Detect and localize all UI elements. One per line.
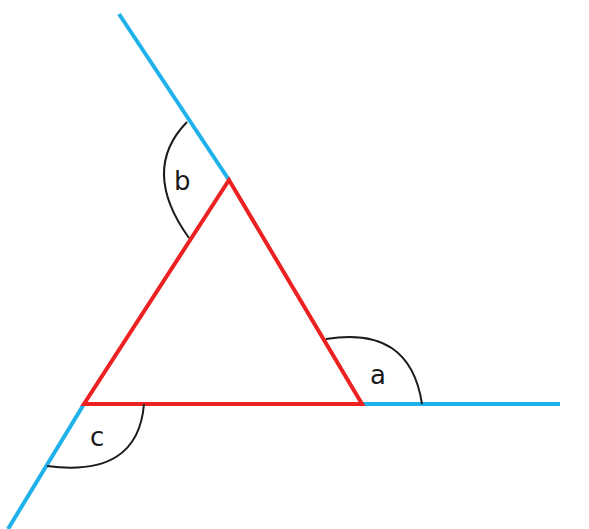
- extension-line-bottom-left: [8, 404, 84, 529]
- triangle: [84, 180, 362, 404]
- angle-label-c: c: [90, 422, 104, 452]
- triangle-diagram: a b c: [0, 0, 589, 529]
- angle-label-b: b: [174, 166, 191, 196]
- extension-line-top: [119, 14, 229, 180]
- angle-label-a: a: [370, 360, 386, 390]
